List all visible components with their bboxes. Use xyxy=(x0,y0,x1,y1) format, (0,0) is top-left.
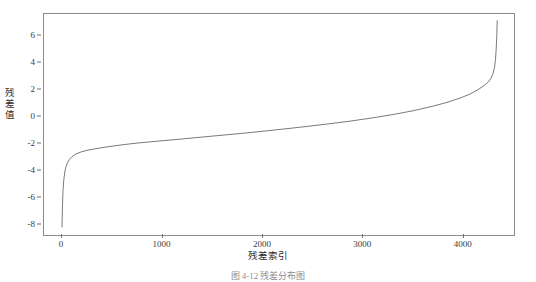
x-axis-tick-mark xyxy=(61,234,62,238)
figure-caption: 图 4-12 残差分布图 xyxy=(0,271,536,282)
y-axis-tick-mark xyxy=(37,223,41,224)
y-axis-tick-mark xyxy=(37,115,41,116)
y-axis-tick-mark xyxy=(37,61,41,62)
y-axis-tick-label: -2 xyxy=(28,138,36,147)
y-axis-tick-mark xyxy=(37,196,41,197)
x-axis-tick-label: 4000 xyxy=(454,240,472,249)
x-axis-tick-label: 1000 xyxy=(153,240,171,249)
x-axis-tick-label: 2000 xyxy=(253,240,271,249)
y-axis-tick-mark xyxy=(37,88,41,89)
x-axis-tick-mark xyxy=(463,234,464,238)
x-axis-title: 残差索引 xyxy=(0,250,536,262)
y-axis-tick-mark xyxy=(37,142,41,143)
y-axis-tick-labels: 6420-2-4-6-8 xyxy=(0,13,41,236)
residual-curve xyxy=(44,14,514,235)
y-axis-title: 残差值 xyxy=(3,88,17,121)
y-axis-tick-label: -4 xyxy=(28,165,36,174)
y-axis-tick-label: -8 xyxy=(28,219,36,228)
x-axis-tick-mark xyxy=(262,234,263,238)
y-axis-tick-mark xyxy=(37,169,41,170)
x-axis-tick-mark xyxy=(162,234,163,238)
plot-area xyxy=(43,13,515,236)
y-axis-tick-label: 0 xyxy=(31,111,36,120)
y-axis-tick-mark xyxy=(37,34,41,35)
y-axis-tick-label: 6 xyxy=(31,30,36,39)
y-axis-tick-label: 4 xyxy=(31,57,36,66)
residual-plot-figure: 6420-2-4-6-8 残差值 01000200030004000 残差索引 … xyxy=(0,0,536,282)
x-axis-tick-mark xyxy=(362,234,363,238)
y-axis-tick-label: -6 xyxy=(28,192,36,201)
y-axis-tick-label: 2 xyxy=(31,84,36,93)
x-axis-tick-label: 3000 xyxy=(353,240,371,249)
x-axis-tick-label: 0 xyxy=(59,240,64,249)
